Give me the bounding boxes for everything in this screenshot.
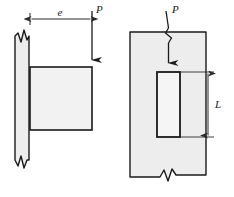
load-line-front-upper: [166, 11, 169, 28]
load-label-front: P: [171, 3, 179, 15]
engineering-figure: e P P: [0, 0, 234, 197]
embedded-member-slot: [157, 72, 180, 137]
load-label-side: P: [95, 3, 103, 15]
load-arrow-side: P: [92, 3, 103, 60]
figure-canvas: e P P: [0, 0, 234, 197]
eccentricity-dimension: e: [30, 6, 91, 25]
length-label: L: [214, 98, 221, 110]
support-wall: [15, 30, 29, 168]
right-front-view: P L: [130, 3, 221, 181]
left-side-view: e P: [15, 3, 103, 168]
beam-side-profile: [30, 67, 92, 130]
eccentricity-label: e: [58, 6, 63, 18]
